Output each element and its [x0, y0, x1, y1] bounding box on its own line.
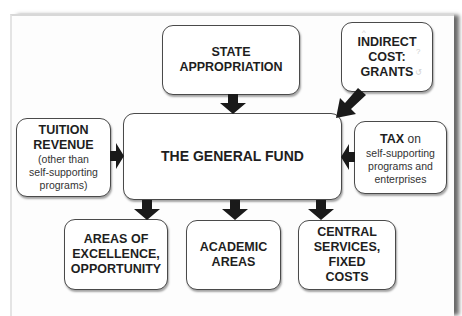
- arrow-tuition-to-fund-icon: [110, 143, 124, 169]
- academic-line-2: AREAS: [212, 255, 256, 270]
- excellence-line-1: AREAS OF: [84, 232, 149, 247]
- general-fund-label: THE GENERAL FUND: [161, 149, 304, 164]
- excellence-line-2: EXCELLENCE,: [72, 247, 160, 262]
- arrow-indirect-to-fund-icon: [334, 88, 366, 120]
- tax-note-3: enterprises: [375, 173, 427, 186]
- state-line-2: APPROPRIATION: [179, 60, 282, 75]
- academic-line-1: ACADEMIC: [200, 240, 267, 255]
- arrow-tax-to-fund-icon: [341, 144, 355, 170]
- ghost-mark-icon: ↺: [415, 68, 422, 77]
- arrow-fund-to-academic-icon: [222, 200, 248, 220]
- state-appropriation-box: STATE APPROPRIATION: [162, 25, 300, 95]
- general-fund-box: THE GENERAL FUND: [123, 113, 342, 200]
- tuition-revenue-box: TUITION REVENUE (other than self-support…: [16, 118, 111, 197]
- ghost-mark-icon: ^: [362, 28, 366, 37]
- ghost-mark-icon: ?: [416, 47, 420, 56]
- state-line-1: STATE: [211, 45, 250, 60]
- arrow-fund-to-excellence-icon: [134, 200, 160, 220]
- indirect-line-3: GRANTS: [361, 65, 414, 80]
- tax-title: TAX: [380, 132, 404, 146]
- tax-box: TAX on self-supporting programs and ente…: [354, 121, 447, 194]
- central-line-3: COSTS: [325, 270, 368, 285]
- tuition-note-3: programs): [40, 179, 88, 192]
- arrow-fund-to-central-icon: [308, 200, 334, 220]
- indirect-line-1: INDIRECT: [357, 35, 416, 50]
- arrow-state-to-fund-icon: [220, 94, 246, 114]
- tuition-line-2: REVENUE: [33, 138, 93, 153]
- tuition-line-1: TUITION: [39, 123, 89, 138]
- indirect-cost-box: INDIRECT COST: GRANTS: [341, 22, 433, 92]
- areas-of-excellence-box: AREAS OF EXCELLENCE, OPPORTUNITY: [64, 219, 168, 290]
- central-line-1: CENTRAL: [317, 225, 377, 240]
- central-line-2: SERVICES, FIXED: [299, 240, 395, 270]
- excellence-line-3: OPPORTUNITY: [71, 262, 161, 277]
- tuition-note-2: self-supporting: [29, 166, 98, 179]
- tuition-note-1: (other than: [38, 153, 89, 166]
- academic-areas-box: ACADEMIC AREAS: [186, 220, 281, 290]
- central-services-box: CENTRAL SERVICES, FIXED COSTS: [298, 220, 396, 290]
- indirect-line-2: COST:: [368, 50, 406, 65]
- tax-note-2: programs and: [368, 160, 433, 173]
- tax-title-suffix: on: [404, 132, 421, 146]
- tax-note-1: self-supporting: [366, 147, 435, 160]
